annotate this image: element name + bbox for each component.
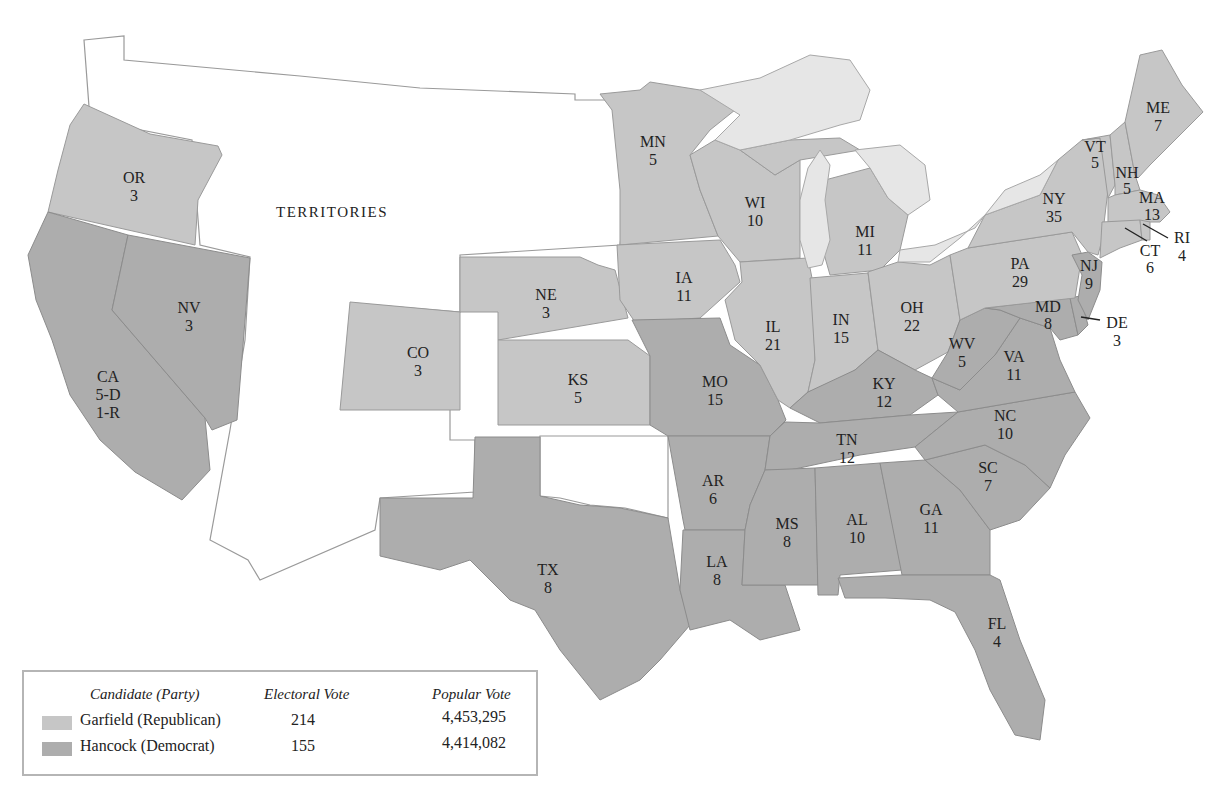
label-MA-votes: 13 bbox=[1144, 206, 1160, 223]
state-CT bbox=[1100, 220, 1142, 258]
legend-header-popular: Popular Vote bbox=[432, 686, 511, 703]
lake-michigan bbox=[800, 150, 830, 268]
label-AL-votes: 10 bbox=[849, 529, 865, 546]
label-MN-abbr: MN bbox=[640, 133, 666, 150]
label-AR-abbr: AR bbox=[702, 472, 725, 489]
state-NY bbox=[968, 138, 1108, 255]
label-TN-votes: 12 bbox=[839, 449, 855, 466]
legend-row-0-popular: 4,453,295 bbox=[442, 708, 506, 726]
label-MD-abbr: MD bbox=[1035, 298, 1061, 315]
state-CO bbox=[340, 302, 460, 410]
label-WI-abbr: WI bbox=[745, 194, 765, 211]
label-AR-votes: 6 bbox=[709, 490, 717, 507]
label-NE-votes: 3 bbox=[542, 304, 550, 321]
label-OH-votes: 22 bbox=[904, 317, 920, 334]
label-AL-abbr: AL bbox=[846, 511, 867, 528]
state-FL bbox=[838, 575, 1045, 740]
label-GA-abbr: GA bbox=[919, 501, 943, 518]
label-IL-votes: 21 bbox=[765, 336, 781, 353]
label-CT-votes: 6 bbox=[1146, 259, 1154, 276]
label-NY-votes: 35 bbox=[1046, 208, 1062, 225]
label-NV-votes: 3 bbox=[185, 317, 193, 334]
label-VA-votes: 11 bbox=[1006, 366, 1021, 383]
label-MS-votes: 8 bbox=[783, 533, 791, 550]
label-TN-abbr: TN bbox=[836, 431, 858, 448]
label-LA-abbr: LA bbox=[706, 553, 728, 570]
label-KS-abbr: KS bbox=[568, 371, 588, 388]
label-CT-abbr: CT bbox=[1140, 242, 1161, 259]
label-MO-votes: 15 bbox=[707, 391, 723, 408]
label-VT-abbr: VT bbox=[1084, 138, 1106, 155]
label-NJ-votes: 9 bbox=[1085, 275, 1093, 292]
legend-row-1-electoral: 155 bbox=[291, 737, 315, 755]
label-NC-abbr: NC bbox=[994, 407, 1016, 424]
label-IN-abbr: IN bbox=[833, 311, 850, 328]
label-NH-abbr: NH bbox=[1115, 164, 1139, 181]
label-ME-votes: 7 bbox=[1154, 117, 1162, 134]
label-MN-votes: 5 bbox=[649, 151, 657, 168]
label-RI-votes: 4 bbox=[1178, 247, 1186, 264]
territories-label: TERRITORIES bbox=[276, 204, 388, 220]
label-CA-votes2: 1-R bbox=[96, 404, 120, 421]
label-OH-abbr: OH bbox=[900, 299, 924, 316]
label-KS-votes: 5 bbox=[574, 389, 582, 406]
label-WI-votes: 10 bbox=[747, 212, 763, 229]
lake-superior bbox=[700, 55, 870, 150]
label-TX-votes: 8 bbox=[544, 579, 552, 596]
label-DE-abbr: DE bbox=[1106, 314, 1127, 331]
label-IA-abbr: IA bbox=[676, 269, 693, 286]
label-NE-abbr: NE bbox=[535, 286, 556, 303]
label-MI-votes: 11 bbox=[857, 241, 872, 258]
legend-header-candidate: Candidate (Party) bbox=[90, 686, 200, 703]
legend-row-0-candidate: Garfield (Republican) bbox=[80, 711, 221, 729]
label-NY-abbr: NY bbox=[1042, 190, 1066, 207]
label-MD-votes: 8 bbox=[1044, 315, 1052, 332]
label-ME-abbr: ME bbox=[1146, 99, 1170, 116]
label-KY-abbr: KY bbox=[872, 375, 896, 392]
label-GA-votes: 11 bbox=[923, 519, 938, 536]
label-MI-abbr: MI bbox=[855, 223, 875, 240]
label-IL-abbr: IL bbox=[765, 318, 780, 335]
label-DE-votes: 3 bbox=[1113, 332, 1121, 349]
democrat-swatch bbox=[42, 742, 72, 756]
label-PA-votes: 29 bbox=[1012, 273, 1028, 290]
label-FL-votes: 4 bbox=[993, 633, 1001, 650]
label-VT-votes: 5 bbox=[1091, 154, 1099, 171]
label-OR-abbr: OR bbox=[123, 169, 146, 186]
label-VA-abbr: VA bbox=[1003, 348, 1024, 365]
label-CA-abbr: CA bbox=[97, 368, 120, 385]
label-SC-abbr: SC bbox=[978, 459, 998, 476]
label-CO-abbr: CO bbox=[407, 344, 429, 361]
label-WV-votes: 5 bbox=[958, 353, 966, 370]
label-PA-abbr: PA bbox=[1011, 255, 1030, 272]
label-IA-votes: 11 bbox=[676, 287, 691, 304]
label-MO-abbr: MO bbox=[702, 373, 728, 390]
label-NV-abbr: NV bbox=[177, 299, 201, 316]
label-WV-abbr: WV bbox=[949, 335, 976, 352]
label-NC-votes: 10 bbox=[997, 425, 1013, 442]
label-NJ-abbr: NJ bbox=[1080, 257, 1098, 274]
label-CA-votes: 5-D bbox=[96, 386, 121, 403]
label-LA-votes: 8 bbox=[713, 571, 721, 588]
label-MS-abbr: MS bbox=[775, 515, 798, 532]
label-CO-votes: 3 bbox=[414, 362, 422, 379]
label-NH-votes: 5 bbox=[1123, 180, 1131, 197]
legend-row-1-candidate: Hancock (Democrat) bbox=[80, 737, 215, 755]
label-SC-votes: 7 bbox=[984, 477, 992, 494]
legend-box: Candidate (Party) Electoral Vote Popular… bbox=[22, 670, 538, 776]
label-KY-votes: 12 bbox=[876, 393, 892, 410]
legend-row-0-electoral: 214 bbox=[291, 711, 315, 729]
label-OR-votes: 3 bbox=[130, 187, 138, 204]
label-FL-abbr: FL bbox=[988, 615, 1007, 632]
label-IN-votes: 15 bbox=[833, 329, 849, 346]
label-MA-abbr: MA bbox=[1139, 189, 1165, 206]
label-RI-abbr: RI bbox=[1174, 229, 1190, 246]
label-TX-abbr: TX bbox=[537, 561, 559, 578]
legend-row-1-popular: 4,414,082 bbox=[442, 734, 506, 752]
republican-swatch bbox=[42, 716, 72, 730]
legend-header-electoral: Electoral Vote bbox=[264, 686, 349, 703]
